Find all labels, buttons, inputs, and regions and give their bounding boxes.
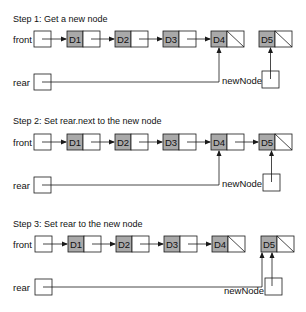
rear-label: rear <box>13 77 30 88</box>
node-data: D3 <box>165 137 177 148</box>
new-node-pointer-box <box>265 278 282 295</box>
front-label: front <box>13 34 32 45</box>
node-d5: D5 <box>259 31 292 47</box>
step-title: Step 2: Set rear.next to the new node <box>13 116 162 126</box>
step-title: Step 3: Set rear to the new node <box>13 219 143 229</box>
node-d4: D4 <box>211 31 244 47</box>
new-node-label: newNode <box>222 75 262 86</box>
node-data: D3 <box>166 239 178 250</box>
node-d4: D4 <box>212 236 245 252</box>
step-2: Step 2: Set rear.next to the new node fr… <box>13 116 292 193</box>
node-data: D4 <box>213 137 225 148</box>
node-data: D1 <box>69 34 81 45</box>
step-title: Step 1: Get a new node <box>13 14 108 24</box>
node-data: D4 <box>213 34 225 45</box>
node-data: D5 <box>261 34 273 45</box>
node-data: D2 <box>118 239 130 250</box>
node-d5: D5 <box>261 236 294 252</box>
node-data: D5 <box>261 137 273 148</box>
node-data: D2 <box>117 34 129 45</box>
linked-queue-enqueue-diagram: Step 1: Get a new node front D1 D2 D3 <box>0 0 306 312</box>
node-d5: D5 <box>259 134 292 150</box>
step-1: Step 1: Get a new node front D1 D2 D3 <box>13 14 292 90</box>
node-data: D1 <box>70 239 82 250</box>
new-node-label: newNode <box>222 178 262 189</box>
node-data: D2 <box>117 137 129 148</box>
node-data: D5 <box>263 239 275 250</box>
front-label: front <box>13 137 32 148</box>
node-data: D1 <box>69 137 81 148</box>
new-node-label: newNode <box>224 285 264 296</box>
step-3: Step 3: Set rear to the new node front D… <box>13 219 294 296</box>
rear-label: rear <box>13 282 30 293</box>
rear-label: rear <box>13 180 30 191</box>
front-label: front <box>13 239 32 250</box>
node-data: D3 <box>165 34 177 45</box>
node-data: D4 <box>214 239 226 250</box>
